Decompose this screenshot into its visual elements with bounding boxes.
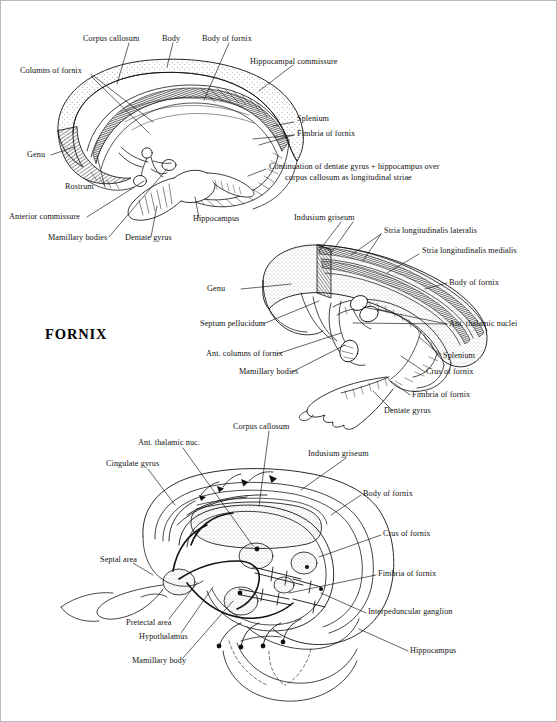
label-corpus-callosum: Corpus callosum <box>83 34 140 44</box>
label-body-of-fornix-bottom: Body of fornix <box>363 489 413 499</box>
label-dentate-gyrus-middle: Dentate gyrus <box>384 406 431 416</box>
label-cingulate-gyrus: Cingulate gyrus <box>106 459 159 469</box>
label-fimbria-of-fornix-bottom: Fimbria of fornix <box>378 569 436 579</box>
label-septal-area: Septal area <box>100 555 137 565</box>
bottom-panel-art <box>61 469 394 702</box>
label-indusium-griseum: Indusium griseum <box>294 213 355 223</box>
label-splenium-middle: Splenium <box>443 351 475 361</box>
label-septum-pellucidum: Septum pellucidum <box>200 319 265 329</box>
label-body-of-fornix-middle: Body of fornix <box>449 278 499 288</box>
label-body: Body <box>162 34 180 44</box>
label-corpus-callosum-bottom: Corpus callosum <box>233 422 290 432</box>
label-splenium: Splenium <box>297 114 329 124</box>
continuation-line-1: Continuation of dentate gyrus + hippocam… <box>269 162 439 171</box>
label-ant-thalamic-nuc: Ant. thalamic nuc. <box>138 438 200 448</box>
anatomy-artwork <box>1 1 557 722</box>
label-hypothalamus: Hypothalamus <box>139 632 188 642</box>
label-genu: Genu <box>27 150 45 160</box>
label-mamillary-bodies: Mamillary bodies <box>48 233 107 243</box>
label-rostrum: Rostrum <box>65 182 94 192</box>
label-interpeduncular-ganglion: Interpeduncular ganglion <box>368 607 453 617</box>
middle-panel-art <box>263 245 487 429</box>
label-ant-thalamic-nuclei: Ant. thalamic nuclei <box>449 319 517 329</box>
label-indusium-griseum-bottom: Indusium griseum <box>308 449 369 459</box>
label-anterior-commissure: Anterior commissure <box>9 212 80 222</box>
label-hippocampal-commissure: Hippocampal commissure <box>250 57 338 67</box>
label-stria-longitudinalis-medialis: Stria longitudinalis medialis <box>422 246 517 256</box>
label-stria-longitudinalis-lateralis: Stria longitudinalis lateralis <box>384 226 477 236</box>
label-fimbria-of-fornix-middle: Fimbria of fornix <box>412 390 470 400</box>
label-crus-of-fornix-bottom: Crus of fornix <box>383 529 431 539</box>
figure-page: FORNIX Corpus callosum Body Body of forn… <box>0 0 557 722</box>
label-genu-middle: Genu <box>207 284 225 294</box>
top-panel-art <box>58 59 303 220</box>
label-pretectal-area: Pretectal area <box>126 618 171 628</box>
label-columns-of-fornix: Columns of fornix <box>20 66 82 76</box>
label-dentate-gyrus: Dentate gyrus <box>125 233 172 243</box>
label-ant-columns-of-fornix: Ant. columns of fornix <box>206 349 283 359</box>
label-crus-of-fornix-middle: Crus of fornix <box>426 367 474 377</box>
label-fimbria-of-fornix: Fimbria of fornix <box>297 129 355 139</box>
continuation-line-2: corpus callosum as longitudinal striae <box>269 173 449 184</box>
page-title: FORNIX <box>45 326 107 343</box>
label-continuation-note: Continuation of dentate gyrus + hippocam… <box>269 162 449 183</box>
label-body-of-fornix: Body of fornix <box>202 34 252 44</box>
label-hippocampus-bottom: Hippocampus <box>410 646 456 656</box>
label-hippocampus: Hippocampus <box>193 214 239 224</box>
label-mamillary-body: Mamillary body <box>132 656 186 666</box>
label-mamillary-bodies-middle: Mamillary bodies <box>239 367 298 377</box>
